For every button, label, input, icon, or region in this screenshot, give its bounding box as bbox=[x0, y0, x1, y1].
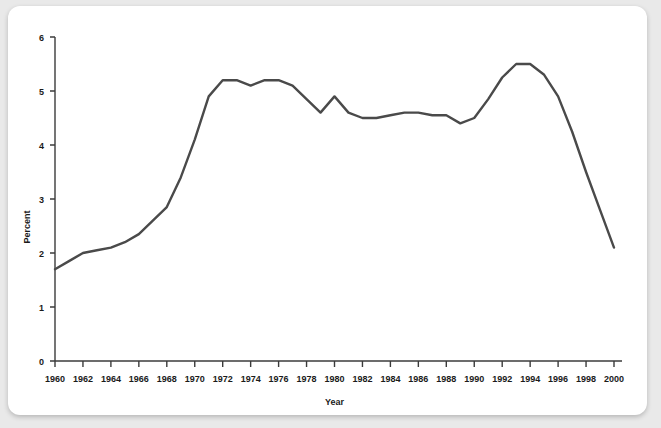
chart-plot-area: 0123456 19601962196419661968197019721974… bbox=[8, 6, 647, 415]
x-tick-label: 1970 bbox=[185, 374, 205, 384]
x-tick-label: 1978 bbox=[297, 374, 317, 384]
y-tick-label: 3 bbox=[39, 195, 44, 205]
x-tick-label: 2000 bbox=[604, 374, 624, 384]
y-tick-label: 6 bbox=[39, 33, 44, 43]
x-tick-label: 1968 bbox=[157, 374, 177, 384]
y-tick-label: 5 bbox=[39, 87, 44, 97]
x-axis-ticks: 1960196219641966196819701972197419761978… bbox=[45, 361, 624, 384]
x-tick-label: 1996 bbox=[548, 374, 568, 384]
line-chart-svg: 0123456 19601962196419661968197019721974… bbox=[8, 6, 647, 415]
x-tick-label: 1976 bbox=[269, 374, 289, 384]
y-tick-label: 0 bbox=[39, 357, 44, 367]
x-tick-label: 1986 bbox=[408, 374, 428, 384]
x-tick-label: 1982 bbox=[352, 374, 372, 384]
x-tick-label: 1998 bbox=[576, 374, 596, 384]
x-tick-label: 1992 bbox=[492, 374, 512, 384]
x-tick-label: 1994 bbox=[520, 374, 540, 384]
x-tick-label: 1962 bbox=[73, 374, 93, 384]
x-tick-label: 1980 bbox=[324, 374, 344, 384]
x-tick-label: 1972 bbox=[213, 374, 233, 384]
y-axis-ticks: 0123456 bbox=[39, 33, 55, 367]
x-tick-label: 1990 bbox=[464, 374, 484, 384]
percent-series-line bbox=[55, 64, 614, 269]
chart-card: 0123456 19601962196419661968197019721974… bbox=[8, 6, 647, 415]
x-tick-label: 1984 bbox=[380, 374, 400, 384]
y-axis-title: Percent bbox=[22, 210, 32, 243]
x-tick-label: 1974 bbox=[241, 374, 261, 384]
x-axis-title: Year bbox=[325, 397, 345, 407]
y-tick-label: 2 bbox=[39, 249, 44, 259]
x-tick-label: 1960 bbox=[45, 374, 65, 384]
x-tick-label: 1964 bbox=[101, 374, 121, 384]
x-tick-label: 1988 bbox=[436, 374, 456, 384]
x-tick-label: 1966 bbox=[129, 374, 149, 384]
y-tick-label: 4 bbox=[39, 141, 44, 151]
y-tick-label: 1 bbox=[39, 303, 44, 313]
